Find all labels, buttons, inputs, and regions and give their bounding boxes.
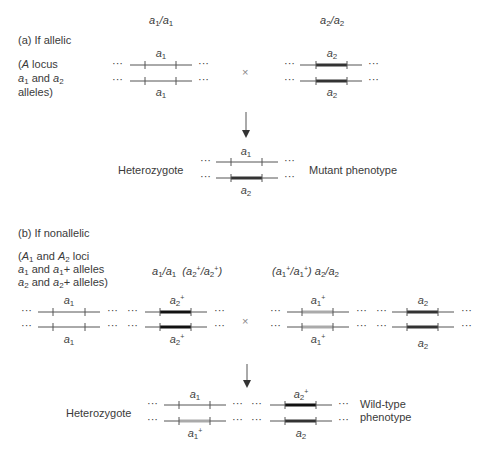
ellipsis: ··· (338, 397, 349, 410)
allele-label: a1 (190, 388, 201, 402)
ellipsis: ··· (200, 170, 211, 183)
panel-b-parent2-genotype: (a1+/a1+) a2/a2 (272, 262, 339, 281)
ellipsis: ··· (198, 57, 209, 70)
ellipsis: ··· (338, 413, 349, 426)
ellipsis: ··· (376, 319, 387, 332)
ellipsis: ··· (21, 304, 32, 317)
allele-label: a1 (156, 47, 167, 61)
panel-b-phenotype-line-1: Wild-type (360, 398, 406, 411)
ellipsis: ··· (214, 304, 225, 317)
ellipsis: ··· (284, 170, 295, 183)
ellipsis: ··· (147, 397, 158, 410)
allele-label: a2 (327, 47, 338, 61)
panel-a-parent2-genotype: a2/a2 (320, 14, 344, 30)
allele-label: a1 (241, 145, 252, 159)
allele-label: a1+ (188, 427, 203, 441)
allele-label: a2 (241, 184, 252, 198)
allele-label: a2 (418, 337, 429, 351)
panel-b-note-line-3: a2 and a2+ alleles) (18, 276, 108, 292)
cross-symbol: × (242, 66, 248, 79)
allele-label: a2 (327, 86, 338, 100)
allele-label: a2 (296, 427, 307, 441)
ellipsis: ··· (284, 154, 295, 167)
allele-label: a1 (156, 86, 167, 100)
cross-symbol: × (242, 315, 248, 328)
ellipsis: ··· (107, 319, 118, 332)
ellipsis: ··· (270, 319, 281, 332)
panel-a-phenotype: Mutant phenotype (309, 164, 397, 177)
ellipsis: ··· (376, 304, 387, 317)
allele-label: a2+ (294, 388, 309, 402)
ellipsis: ··· (251, 413, 262, 426)
ellipsis: ··· (147, 413, 158, 426)
ellipsis: ··· (198, 73, 209, 86)
allele-label: a1 (64, 333, 75, 347)
panel-a-note-line-3: alleles) (18, 86, 53, 99)
allele-label: a1+ (311, 294, 326, 308)
ellipsis: ··· (21, 319, 32, 332)
ellipsis: ··· (127, 319, 138, 332)
allele-label: a2 (418, 294, 429, 308)
allele-label: a1 (64, 294, 75, 308)
panel-b-offspring-label: Heterozygote (66, 407, 131, 420)
panel-a-heading: (a) If allelic (18, 34, 71, 47)
panel-a-note-line-1: (A locus (18, 58, 58, 71)
allele-label: a2+ (170, 294, 185, 308)
ellipsis: ··· (284, 57, 295, 70)
ellipsis: ··· (461, 319, 472, 332)
allele-label: a2+ (170, 333, 185, 347)
panel-a-offspring-label: Heterozygote (118, 164, 183, 177)
ellipsis: ··· (356, 304, 367, 317)
ellipsis: ··· (232, 397, 243, 410)
ellipsis: ··· (270, 304, 281, 317)
ellipsis: ··· (284, 73, 295, 86)
panel-a-parent1-genotype: a1/a1 (149, 14, 173, 30)
ellipsis: ··· (368, 73, 379, 86)
ellipsis: ··· (356, 319, 367, 332)
ellipsis: ··· (107, 304, 118, 317)
ellipsis: ··· (461, 304, 472, 317)
allele-label: a1+ (311, 333, 326, 347)
ellipsis: ··· (112, 73, 123, 86)
ellipsis: ··· (127, 304, 138, 317)
ellipsis: ··· (232, 413, 243, 426)
panel-b-heading: (b) If nonallelic (18, 227, 90, 240)
panel-b-parent1-genotype: a1/a1 (a2+/a2+) (152, 262, 222, 281)
ellipsis: ··· (112, 57, 123, 70)
panel-b-phenotype-line-2: phenotype (360, 411, 411, 424)
ellipsis: ··· (251, 397, 262, 410)
ellipsis: ··· (368, 57, 379, 70)
ellipsis: ··· (214, 319, 225, 332)
ellipsis: ··· (200, 154, 211, 167)
